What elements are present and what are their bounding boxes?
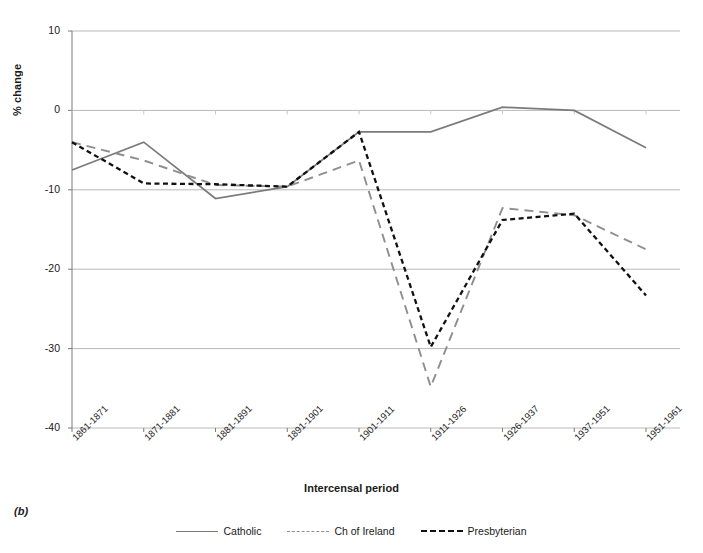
y-tick-label: -30: [26, 343, 60, 353]
legend-label: Ch of Ireland: [334, 525, 394, 537]
series-line-presbyterian: [72, 132, 646, 347]
series-line-catholic: [72, 107, 646, 198]
legend-item-presbyterian[interactable]: Presbyterian: [421, 525, 527, 537]
y-tick-label: -20: [26, 263, 60, 273]
figure-panel-b: % change 100-10-20-30-40 1861-18711871-1…: [0, 0, 703, 553]
panel-letter: (b): [14, 505, 28, 517]
y-tick-label: 0: [26, 104, 60, 114]
series-line-ch-of-ireland: [72, 142, 646, 387]
y-tick-label: 10: [26, 25, 60, 35]
legend-label: Presbyterian: [468, 525, 527, 537]
y-tick-label: -40: [26, 422, 60, 432]
plot-area: [0, 0, 703, 553]
legend-swatch-icon: [287, 531, 329, 532]
y-tick-label: -10: [26, 184, 60, 194]
legend-label: Catholic: [223, 525, 261, 537]
legend-item-catholic[interactable]: Catholic: [176, 525, 261, 537]
legend-swatch-icon: [421, 530, 463, 532]
x-axis-title: Intercensal period: [0, 482, 703, 494]
chart-legend: CatholicCh of IrelandPresbyterian: [0, 525, 703, 537]
legend-swatch-icon: [176, 531, 218, 532]
y-axis-title: % change: [6, 45, 28, 135]
legend-item-ch-of-ireland[interactable]: Ch of Ireland: [287, 525, 394, 537]
